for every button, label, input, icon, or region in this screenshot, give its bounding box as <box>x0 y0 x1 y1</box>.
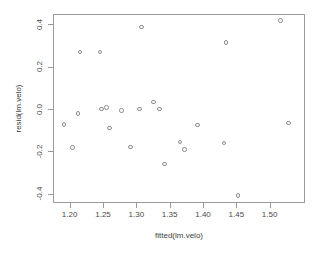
data-point <box>98 50 102 54</box>
x-axis-tick <box>103 203 104 208</box>
y-axis-tick-label: 0.2 <box>33 53 47 81</box>
y-axis-tick-label-text: 0.4 <box>36 19 45 30</box>
chart-title <box>52 0 272 2</box>
data-point <box>157 107 161 111</box>
y-axis-tick <box>48 194 53 195</box>
y-axis-tick <box>48 67 53 68</box>
x-axis-tick <box>136 203 137 208</box>
x-axis-tick <box>270 203 271 208</box>
y-axis-tick-label-text: -0.4 <box>35 187 44 201</box>
x-axis-tick <box>203 203 204 208</box>
data-point <box>78 50 82 54</box>
data-point <box>162 162 166 166</box>
y-axis-tick-label: 0.0 <box>33 95 47 123</box>
data-point <box>119 108 123 112</box>
data-point <box>70 145 74 149</box>
y-axis-tick-label: -0.2 <box>33 137 47 165</box>
data-point <box>151 100 155 104</box>
data-point <box>99 107 103 111</box>
scatter-plot: 1.201.251.301.351.401.451.50 0.40.20.0-0… <box>0 0 322 254</box>
y-axis-tick-label: 0.4 <box>33 10 47 38</box>
y-axis-tick-label-text: -0.2 <box>35 145 44 159</box>
x-axis-label: fitted(lm.velo) <box>53 231 305 240</box>
data-point <box>139 25 143 29</box>
data-point <box>62 122 66 126</box>
y-axis-tick <box>48 151 53 152</box>
data-point <box>76 111 80 115</box>
y-axis-tick <box>48 24 53 25</box>
x-axis-tick <box>236 203 237 208</box>
y-axis-tick-label-text: 0.0 <box>36 103 45 114</box>
y-axis-tick-label: -0.4 <box>33 180 47 208</box>
x-axis-tick-label: 1.50 <box>250 210 290 220</box>
y-axis-label: resid(lm.velo) <box>8 14 28 203</box>
data-point <box>137 107 141 111</box>
data-point <box>182 147 186 151</box>
y-axis-label-text: resid(lm.velo) <box>14 84 23 132</box>
x-axis-tick <box>70 203 71 208</box>
data-point <box>107 126 111 130</box>
data-point <box>104 105 108 109</box>
data-point <box>195 123 199 127</box>
y-axis-tick <box>48 109 53 110</box>
data-point <box>224 40 228 44</box>
data-point <box>128 145 132 149</box>
plot-panel <box>53 14 305 203</box>
data-point <box>178 140 182 144</box>
data-point <box>222 141 226 145</box>
x-axis-tick <box>170 203 171 208</box>
data-point <box>278 18 282 22</box>
data-point <box>236 193 240 197</box>
y-axis-tick-label-text: 0.2 <box>36 61 45 72</box>
data-point <box>286 121 290 125</box>
